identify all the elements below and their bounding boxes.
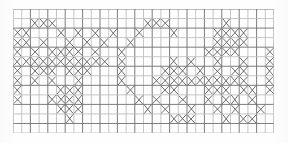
x-mark — [266, 86, 273, 93]
x-mark — [214, 29, 221, 37]
x-mark — [75, 29, 82, 37]
x-mark — [171, 77, 178, 85]
x-mark — [40, 39, 47, 46]
x-mark — [214, 67, 221, 75]
x-mark — [214, 57, 221, 65]
x-mark — [188, 77, 195, 85]
x-mark — [214, 76, 221, 84]
x-mark — [232, 105, 239, 113]
x-mark — [153, 77, 160, 84]
x-mark — [145, 20, 151, 27]
x-mark — [170, 67, 177, 75]
x-mark — [240, 86, 247, 94]
x-mark — [240, 115, 247, 122]
x-mark — [66, 105, 73, 113]
x-mark — [206, 76, 212, 84]
x-mark — [197, 67, 203, 75]
x-mark — [205, 96, 212, 104]
x-mark — [49, 48, 56, 56]
x-mark — [66, 38, 73, 46]
x-mark — [232, 95, 239, 103]
x-mark — [162, 19, 169, 26]
x-mark — [222, 29, 229, 37]
x-mark — [161, 86, 168, 93]
x-mark — [266, 67, 273, 75]
x-mark — [223, 19, 229, 27]
x-mark — [66, 67, 73, 75]
x-mark — [66, 96, 72, 103]
x-mark — [231, 76, 238, 84]
x-mark — [49, 67, 55, 75]
x-mark — [119, 58, 126, 65]
x-mark — [101, 58, 108, 65]
x-mark — [223, 48, 230, 55]
x-mark — [248, 115, 255, 123]
x-mark — [14, 77, 21, 85]
x-mark — [14, 29, 21, 37]
x-mark — [32, 67, 39, 75]
x-mark — [162, 106, 169, 113]
x-mark — [92, 48, 99, 55]
x-mark — [135, 96, 142, 104]
x-mark — [214, 105, 222, 113]
x-mark — [118, 76, 125, 84]
x-mark — [214, 48, 221, 56]
x-mark — [84, 58, 91, 65]
x-mark — [127, 39, 133, 47]
x-mark — [66, 86, 73, 94]
x-mark — [223, 39, 230, 47]
x-mark — [153, 96, 160, 103]
x-mark — [66, 48, 73, 56]
x-mark — [49, 77, 56, 84]
x-mark — [40, 57, 47, 65]
x-mark — [75, 48, 82, 56]
x-mark — [223, 87, 229, 94]
x-mark — [170, 57, 177, 65]
x-mark — [179, 77, 186, 85]
x-mark — [75, 95, 81, 103]
x-mark — [188, 58, 195, 66]
x-mark — [231, 48, 238, 56]
x-mark — [214, 38, 221, 46]
x-mark — [136, 29, 143, 37]
x-mark — [75, 58, 82, 66]
x-mark — [14, 96, 21, 103]
x-mark — [179, 96, 186, 103]
x-mark — [240, 38, 247, 46]
x-mark — [162, 67, 169, 75]
x-mark — [118, 67, 125, 75]
x-mark — [110, 29, 117, 37]
x-mark — [83, 38, 90, 46]
x-mark — [92, 57, 99, 65]
x-mark — [257, 106, 264, 113]
x-mark — [57, 58, 64, 66]
scanned-pattern-sheet: Cross-stitch grid pattern — [0, 0, 288, 143]
x-mark — [48, 95, 55, 103]
x-mark — [162, 77, 169, 85]
x-mark — [57, 86, 64, 94]
x-mark — [127, 86, 134, 94]
x-mark — [205, 48, 212, 56]
x-mark — [40, 67, 47, 75]
x-mark — [197, 77, 204, 84]
x-mark — [266, 77, 273, 84]
x-mark — [23, 58, 30, 66]
x-mark — [179, 115, 186, 123]
x-mark — [231, 29, 238, 37]
x-mark — [75, 86, 81, 94]
x-mark — [14, 67, 21, 75]
grid-canvas — [13, 9, 274, 133]
x-mark — [249, 86, 256, 94]
x-mark — [49, 58, 56, 66]
x-mark — [205, 86, 212, 93]
x-mark — [14, 58, 21, 66]
x-mark — [240, 29, 247, 37]
x-mark — [23, 29, 30, 38]
x-mark — [14, 39, 21, 46]
x-mark — [14, 86, 21, 94]
x-mark — [232, 68, 239, 75]
x-mark — [118, 48, 125, 56]
x-mark — [223, 115, 229, 123]
x-mark — [223, 77, 230, 85]
x-mark — [75, 67, 82, 74]
